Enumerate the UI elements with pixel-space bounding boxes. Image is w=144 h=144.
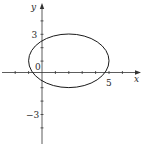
y-axis-label: y [30,2,37,12]
x-tick-label-5: 5 [106,78,112,88]
origin-label: 0 [35,62,41,72]
y-axis-arrow-icon [40,3,44,9]
y-axis [40,3,44,144]
ellipse-plot: y x 0 5 3 −3 [0,0,144,144]
y-tick-label-3: 3 [32,30,38,40]
x-axis-label: x [134,74,139,84]
x-axis [2,70,141,74]
y-tick-label-neg3: −3 [26,110,40,120]
